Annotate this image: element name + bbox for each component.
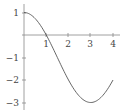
function-plot: 1 2 3 4 1 −1 −2 −3 — [0, 0, 126, 112]
y-tick-label: 1 — [13, 8, 19, 18]
axes: 1 2 3 4 1 −1 −2 −3 — [6, 4, 120, 110]
x-tick-label: 2 — [65, 39, 71, 49]
x-tick-label: 1 — [43, 39, 49, 49]
y-tick-label: −3 — [6, 98, 20, 108]
y-tick-label: −1 — [6, 53, 19, 63]
function-curve — [24, 13, 113, 103]
x-tick-label: 3 — [87, 39, 93, 49]
y-tick-label: −2 — [6, 75, 19, 85]
x-tick-label: 4 — [110, 39, 116, 49]
